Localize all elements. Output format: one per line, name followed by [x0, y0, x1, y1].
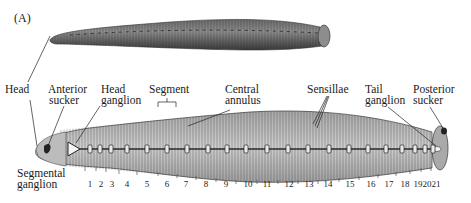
label-posterior-sucker: Posterior sucker [413, 84, 455, 106]
segment-number: 14 [324, 179, 333, 189]
label-head-ganglion: Head ganglion [101, 84, 141, 106]
segment-number: 4 [125, 179, 130, 189]
segment-number: 2 [99, 179, 104, 189]
segment-number: 5 [145, 179, 150, 189]
segment-number: 11 [263, 179, 272, 189]
segment-number: 6 [165, 179, 170, 189]
label-segmental-ganglion: Segmental ganglion [17, 168, 66, 190]
segment-number: 20 [423, 179, 432, 189]
label-segmental-ganglion-line2: ganglion [17, 179, 66, 190]
segment-number: 10 [244, 179, 253, 189]
segment-number: 9 [224, 179, 229, 189]
segment-number: 16 [367, 179, 376, 189]
label-head-ganglion-line2: ganglion [101, 95, 141, 106]
segment-number: 12 [285, 179, 294, 189]
label-anterior-sucker: Anterior sucker [48, 84, 87, 106]
segment-number: 3 [110, 179, 115, 189]
segment-number: 15 [346, 179, 355, 189]
label-segment: Segment [149, 84, 189, 95]
segment-number: 19 [414, 179, 423, 189]
segment-number: 21 [432, 179, 441, 189]
label-sensillae: Sensillae [307, 84, 349, 95]
segment-number: 18 [401, 179, 410, 189]
segment-number: 17 [385, 179, 394, 189]
label-central-annulus-line2: annulus [225, 95, 261, 106]
label-head: Head [5, 84, 29, 95]
dorsal-leech-view [50, 19, 330, 50]
panel-label: (A) [14, 13, 31, 24]
segment-number: 13 [305, 179, 314, 189]
segment-number: 1 [88, 179, 93, 189]
label-tail-ganglion-line2: ganglion [365, 95, 405, 106]
segment-number: 7 [184, 179, 189, 189]
segment-number: 8 [204, 179, 209, 189]
label-anterior-sucker-line2: sucker [48, 95, 87, 106]
label-central-annulus: Central annulus [225, 84, 261, 106]
label-tail-ganglion: Tail ganglion [365, 84, 405, 106]
label-posterior-sucker-line2: sucker [413, 95, 455, 106]
